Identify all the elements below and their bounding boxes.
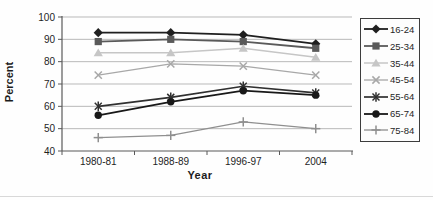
y-tick-label: 70 xyxy=(44,79,56,90)
plus-marker-icon xyxy=(166,131,175,140)
y-tick-label: 80 xyxy=(44,56,56,67)
legend-key-x-icon xyxy=(364,74,388,86)
legend-key-plus-icon xyxy=(364,124,388,136)
series-line-16-24 xyxy=(98,33,316,44)
legend-item: 25-34 xyxy=(364,40,419,52)
legend-key-circle-icon xyxy=(364,108,388,120)
square-marker-icon xyxy=(167,36,174,43)
diamond-marker-icon xyxy=(371,25,380,34)
plus-marker-icon xyxy=(311,124,320,133)
square-marker-icon xyxy=(372,43,379,50)
plus-marker-icon xyxy=(94,133,103,142)
legend-label: 75-84 xyxy=(390,125,414,136)
legend-item: 16-24 xyxy=(364,23,419,35)
legend-key-star-icon xyxy=(364,91,388,103)
legend-item: 65-74 xyxy=(364,108,419,120)
circle-marker-icon xyxy=(167,98,174,105)
legend-label: 65-74 xyxy=(390,108,414,119)
series-line-75-84 xyxy=(98,122,316,138)
legend-key-triangle-icon xyxy=(364,57,388,69)
x-tick-label: 1996-97 xyxy=(225,156,262,167)
legend-label: 45-54 xyxy=(390,74,414,85)
x-axis-title: Year xyxy=(160,169,240,181)
square-marker-icon xyxy=(312,45,319,52)
square-marker-icon xyxy=(95,38,102,45)
y-tick-label: 60 xyxy=(44,101,56,112)
legend-label: 55-64 xyxy=(390,91,414,102)
series-line-35-44 xyxy=(98,48,316,57)
chart-figure: 4050607080901001980-811988-891996-972004… xyxy=(0,0,433,200)
circle-marker-icon xyxy=(95,112,102,119)
x-tick-label: 1980-81 xyxy=(80,156,117,167)
circle-marker-icon xyxy=(312,91,319,98)
legend-item: 55-64 xyxy=(364,91,419,103)
legend-key-diamond-icon xyxy=(364,23,388,35)
legend-label: 25-34 xyxy=(390,41,414,52)
legend-item: 45-54 xyxy=(364,74,419,86)
page-rule xyxy=(0,196,433,197)
legend-box: 16-2425-3435-4445-5455-6465-7475-84 xyxy=(360,18,420,142)
legend-item: 35-44 xyxy=(364,57,419,69)
legend-key-square-icon xyxy=(364,40,388,52)
y-tick-label: 100 xyxy=(38,12,55,23)
circle-marker-icon xyxy=(240,87,247,94)
series-line-45-54 xyxy=(98,64,316,75)
legend-label: 35-44 xyxy=(390,58,414,69)
legend-label: 16-24 xyxy=(390,24,414,35)
circle-marker-icon xyxy=(372,110,379,117)
plus-marker-icon xyxy=(239,117,248,126)
y-tick-label: 90 xyxy=(44,34,56,45)
y-axis-title: Percent xyxy=(3,46,15,118)
legend-item: 75-84 xyxy=(364,124,419,136)
y-tick-label: 50 xyxy=(44,123,56,134)
x-tick-label: 1988-89 xyxy=(152,156,189,167)
diamond-marker-icon xyxy=(94,28,103,37)
y-tick-label: 40 xyxy=(44,146,56,157)
x-tick-label: 2004 xyxy=(305,156,328,167)
plus-marker-icon xyxy=(371,126,380,135)
